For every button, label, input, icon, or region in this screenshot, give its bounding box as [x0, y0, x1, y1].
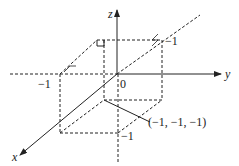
y-axis-label: y [224, 67, 231, 81]
z-axis-label: z [107, 7, 113, 21]
coordinate-diagram: z y x 0 −1 −1 −1 (−1, −1, −1) [0, 0, 239, 166]
x-axis-label: x [11, 150, 18, 164]
origin-label: 0 [120, 77, 126, 91]
point-label: (−1, −1, −1) [148, 115, 206, 129]
box-edge-top-left [60, 40, 97, 74]
x-neg-one-label: −1 [121, 129, 134, 143]
right-angle-mark-top-right [152, 34, 158, 46]
z-neg-one-label: −1 [165, 34, 178, 48]
x-axis [20, 74, 117, 155]
right-angle-mark-top-left [97, 40, 104, 46]
x-axis-negative [117, 15, 200, 74]
y-neg-one-label: −1 [38, 77, 51, 91]
point-pointer [104, 100, 150, 122]
